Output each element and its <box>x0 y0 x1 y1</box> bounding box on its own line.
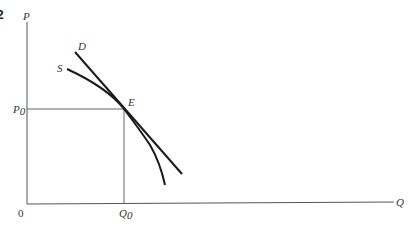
p0-label: P0 <box>12 103 26 117</box>
supply-demand-diagram: 2 P Q 0 P0 Q0 D S E <box>0 0 409 228</box>
supply-curve <box>67 69 165 185</box>
demand-label: D <box>77 40 86 52</box>
equilibrium-label: E <box>127 96 135 108</box>
demand-curve <box>75 52 182 174</box>
x-axis-label: Q <box>396 196 404 208</box>
supply-label: S <box>57 62 63 74</box>
q0-label: Q0 <box>119 207 133 221</box>
origin-label: 0 <box>18 207 24 219</box>
y-axis-label: P <box>22 10 30 22</box>
x-axis <box>27 202 394 204</box>
figure-number: 2 <box>0 8 4 22</box>
